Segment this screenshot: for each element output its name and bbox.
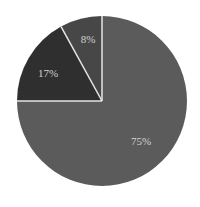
slice-label-8: 8% — [81, 33, 96, 45]
pie-slices — [17, 16, 187, 186]
slice-label-17: 17% — [38, 67, 58, 79]
pie-chart: 75%17%8% — [0, 0, 200, 207]
slice-label-75: 75% — [131, 135, 151, 147]
